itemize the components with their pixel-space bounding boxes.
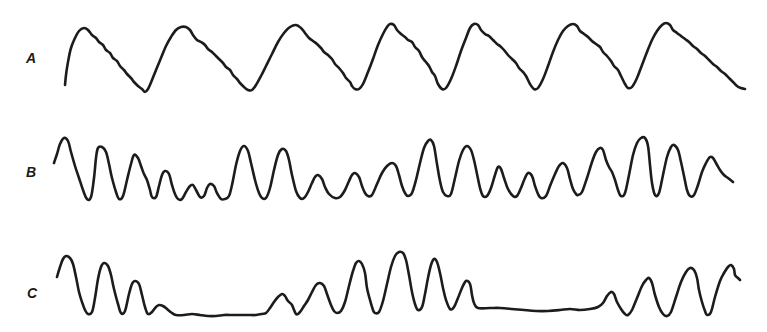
trace-b-label: B (26, 165, 36, 179)
trace-a-label: A (26, 51, 36, 65)
trace-c-label: C (27, 286, 37, 300)
trace-a-waveform (65, 23, 745, 92)
trace-b-waveform (54, 137, 733, 200)
waveform-figure (0, 0, 767, 332)
trace-c-waveform (57, 252, 740, 316)
